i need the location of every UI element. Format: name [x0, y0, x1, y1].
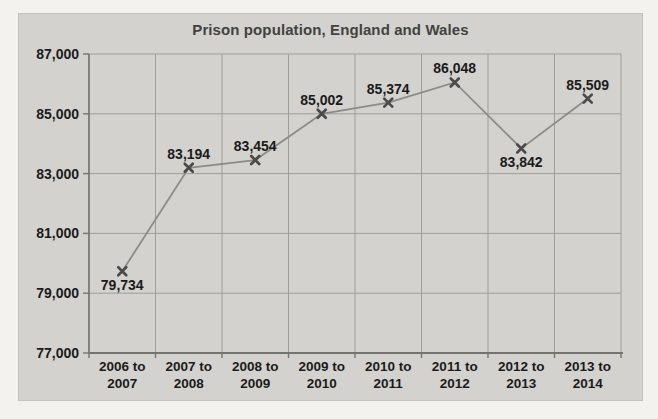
x-category-label-line1: 2013 to [564, 359, 611, 374]
x-category-label-line1: 2008 to [232, 359, 279, 374]
x-category-label-line1: 2010 to [365, 359, 412, 374]
x-category-label-line1: 2007 to [165, 359, 212, 374]
data-point-label: 79,734 [101, 277, 144, 293]
line-chart-plot: 77,00079,00081,00083,00085,00087,00079,7… [19, 14, 644, 402]
x-category-label-line1: 2006 to [99, 359, 146, 374]
y-tick-label: 85,000 [36, 106, 79, 122]
data-point-label: 85,374 [367, 81, 410, 97]
x-category-label-line2: 2014 [573, 376, 604, 391]
y-tick-label: 83,000 [36, 166, 79, 182]
x-category-label-line2: 2010 [307, 376, 337, 391]
y-tick-label: 87,000 [36, 46, 79, 62]
x-marker-icon [517, 144, 525, 152]
data-point-label: 83,194 [167, 146, 210, 162]
x-category-label-line2: 2008 [174, 376, 205, 391]
data-point-label: 85,509 [566, 77, 609, 93]
data-point-label: 86,048 [433, 60, 476, 76]
x-category-label-line2: 2007 [107, 376, 137, 391]
x-category-label-line1: 2012 to [498, 359, 545, 374]
chart-area: Prison population, England and Wales 77,… [18, 13, 643, 401]
x-marker-icon [584, 95, 592, 103]
data-point-label: 83,842 [500, 154, 543, 170]
x-category-label-line1: 2009 to [298, 359, 345, 374]
x-marker-icon [118, 267, 126, 275]
y-tick-label: 77,000 [36, 345, 79, 361]
x-category-label-line1: 2011 to [432, 359, 478, 374]
x-category-label-line2: 2012 [440, 376, 470, 391]
y-tick-label: 79,000 [36, 285, 79, 301]
x-category-label-line2: 2011 [374, 376, 404, 391]
data-point-label: 85,002 [300, 92, 343, 108]
y-tick-label: 81,000 [36, 225, 79, 241]
x-category-label-line2: 2013 [506, 376, 537, 391]
data-point-label: 83,454 [234, 138, 277, 154]
x-category-label-line2: 2009 [240, 376, 270, 391]
